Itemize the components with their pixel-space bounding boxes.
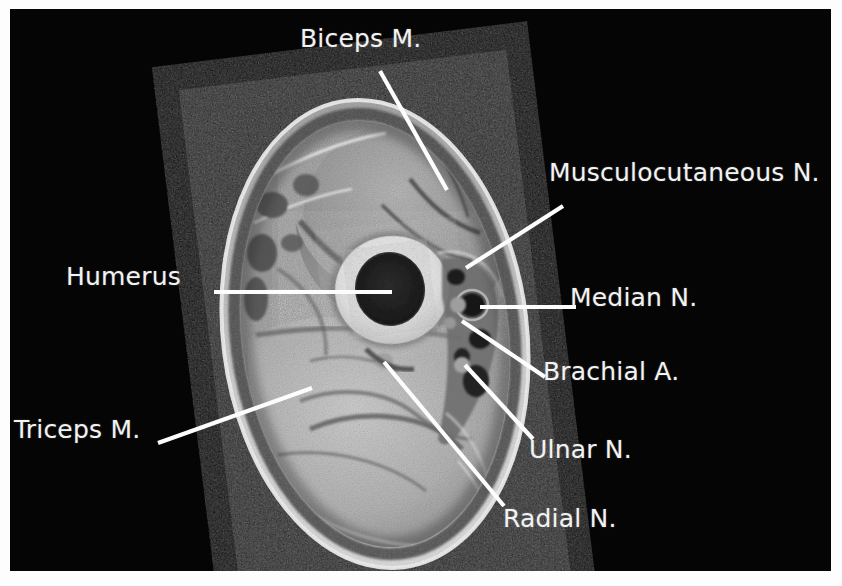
median-nerve xyxy=(450,297,466,313)
label-brachial-artery: Brachial A. xyxy=(543,359,679,384)
label-radial: Radial N. xyxy=(503,506,617,531)
label-ulnar: Ulnar N. xyxy=(529,437,632,462)
label-median: Median N. xyxy=(570,285,697,310)
label-biceps: Biceps M. xyxy=(300,26,421,51)
label-triceps: Triceps M. xyxy=(14,417,140,442)
mri-plate: Biceps M. Musculocutaneous N. Humerus Me… xyxy=(10,9,831,571)
figure-page: Biceps M. Musculocutaneous N. Humerus Me… xyxy=(0,0,842,586)
label-musculocutaneous: Musculocutaneous N. xyxy=(549,160,820,185)
label-humerus: Humerus xyxy=(66,264,181,289)
